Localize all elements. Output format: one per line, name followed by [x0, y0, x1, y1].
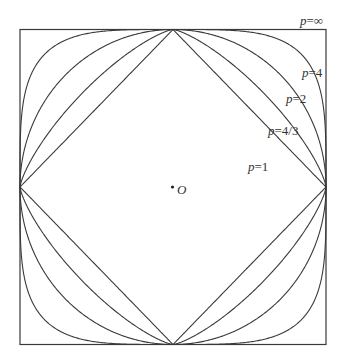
labels-group: p=1p=4/3p=2p=4p=∞ [247, 13, 323, 174]
curve-label-eq: = [307, 13, 314, 28]
curve-label-p1: p=1 [247, 159, 268, 174]
curve-label-value: 2 [300, 91, 307, 106]
curve-label-eq: = [309, 65, 316, 80]
curve-label-p2: p=2 [285, 91, 306, 106]
curve-label-value: 4 [316, 65, 323, 80]
curve-label-eq: = [293, 91, 300, 106]
diagram-canvas: p=1p=4/3p=2p=4p=∞ O [0, 0, 348, 362]
p-norm-unit-balls-diagram: p=1p=4/3p=2p=4p=∞ O [0, 0, 348, 362]
curve-label-value: 4/3 [282, 123, 299, 138]
curve-label-p43: p=4/3 [267, 123, 298, 138]
origin-label: O [177, 182, 187, 197]
curve-label-pinf: p=∞ [299, 13, 323, 28]
origin-point [171, 185, 174, 188]
curve-label-p4: p=4 [301, 65, 323, 80]
curve-label-eq: = [255, 159, 262, 174]
curve-label-value: 1 [262, 159, 269, 174]
curve-label-value: ∞ [314, 13, 323, 28]
curve-label-eq: = [275, 123, 282, 138]
